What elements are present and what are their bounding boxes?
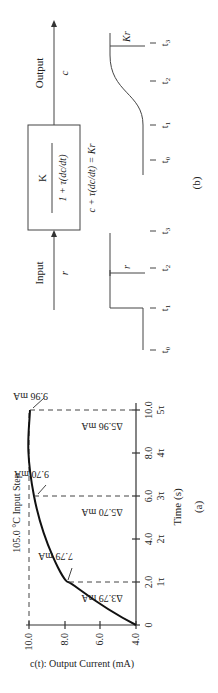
tf-denominator: 1 + τ(dc/dt) (57, 154, 69, 202)
svg-text:t3: t3 (159, 227, 172, 234)
panel-a-label: (a) (192, 501, 205, 514)
svg-text:t1: t1 (159, 121, 172, 128)
system-equation: c + τ(dc/dt) = Kr (86, 144, 98, 213)
svg-text:Δ5.70 mA: Δ5.70 mA (81, 507, 123, 518)
step-amplitude-label: r (121, 265, 132, 269)
svg-text:2.0: 2.0 (143, 576, 154, 589)
input-label: Input (33, 261, 45, 284)
svg-text:4.0: 4.0 (130, 633, 141, 646)
figure-canvas: 0 2.0 4.0 6.0 8.0 10.0 1τ 2τ 3τ 4τ 5τ Ti… (0, 0, 218, 693)
svg-text:6.0: 6.0 (143, 490, 154, 503)
svg-text:6.0: 6.0 (94, 633, 105, 646)
svg-text:2τ: 2τ (155, 534, 166, 543)
svg-text:t2: t2 (159, 77, 172, 84)
chart-title: 105.0 °C Input Step (11, 473, 22, 553)
svg-text:8.0: 8.0 (59, 633, 70, 646)
panel-b-label: (b) (190, 176, 203, 189)
svg-text:t1: t1 (159, 304, 172, 311)
svg-text:8.0: 8.0 (143, 447, 154, 460)
x-tick-labels: 0 2.0 4.0 6.0 8.0 10.0 (143, 401, 154, 627)
svg-text:t0: t0 (159, 346, 172, 353)
y-axis-label: c(t): Output Current (mA) (30, 658, 134, 670)
output-symbol: c (58, 70, 70, 75)
chart-panel-a: 0 2.0 4.0 6.0 8.0 10.0 1τ 2τ 3τ 4τ 5τ Ti… (11, 391, 205, 670)
output-response-waveform (110, 33, 143, 175)
svg-text:0: 0 (143, 623, 154, 628)
time-labels: t0 t1 t2 t3 t0 t1 t2 t3 (159, 39, 172, 353)
x-axis-label: Time (s) (171, 488, 184, 526)
svg-text:4.0: 4.0 (143, 533, 154, 546)
svg-text:7.79 mA: 7.79 mA (37, 551, 73, 562)
svg-text:9.70 mA: 9.70 mA (13, 469, 49, 480)
svg-text:10.0: 10.0 (23, 633, 34, 651)
response-amplitude-label: Kr (121, 31, 132, 43)
time-ticks (150, 43, 156, 350)
tau-tick-labels: 1τ 2τ 3τ 4τ 5τ (155, 405, 166, 586)
svg-text:5τ: 5τ (155, 405, 166, 414)
svg-text:1τ: 1τ (155, 577, 166, 586)
tf-numerator: K (36, 174, 48, 182)
step-input-waveform (110, 233, 143, 350)
svg-text:10.0: 10.0 (143, 401, 154, 419)
svg-text:4τ: 4τ (155, 448, 166, 457)
svg-text:t2: t2 (159, 264, 172, 271)
svg-text:t0: t0 (159, 156, 172, 163)
y-tick-labels: 4.0 6.0 8.0 10.0 (23, 633, 141, 651)
output-label: Output (33, 58, 45, 89)
svg-text:9.96 mA: 9.96 mA (12, 391, 48, 402)
svg-text:t3: t3 (159, 39, 172, 46)
svg-text:3τ: 3τ (155, 491, 166, 500)
input-symbol: r (58, 270, 70, 275)
diagram-panel-b: Input r K 1 + τ(dc/dt) c + τ(dc/dt) = Kr… (28, 20, 203, 353)
svg-text:Δ5.96 mA: Δ5.96 mA (81, 421, 123, 432)
svg-text:Δ3.79 mA: Δ3.79 mA (81, 593, 123, 604)
